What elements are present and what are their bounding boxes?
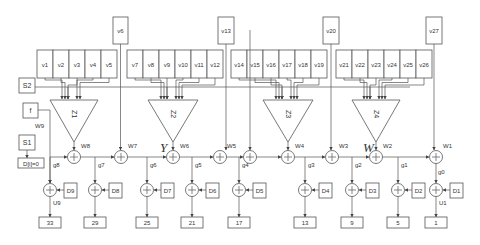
tap-label: g2 (355, 162, 362, 168)
delay-D7-label: D7 (164, 188, 172, 194)
connector-line (182, 78, 215, 99)
cell-v25-label: v25 (403, 62, 413, 68)
connector-line (45, 78, 62, 99)
cell-v23-label: v23 (371, 62, 381, 68)
W9-label: W9 (35, 123, 45, 129)
connector-line (80, 78, 109, 99)
connector-line (135, 78, 161, 99)
output-21-label: 21 (189, 220, 196, 226)
summing-triangle-Z1 (50, 100, 98, 142)
weight-label-W8: W8 (81, 143, 91, 149)
delay-D3-label: D3 (369, 188, 377, 194)
cell-v7-label: v7 (132, 62, 139, 68)
delay-D6-label: D6 (209, 188, 217, 194)
delay-D2-label: D2 (415, 188, 423, 194)
output-29-label: 29 (92, 220, 99, 226)
f-box-label: f (30, 107, 32, 114)
summing-triangle-Z2 (148, 100, 198, 142)
cell-v12-label: v12 (210, 62, 220, 68)
weight-label-W4: W4 (295, 143, 305, 149)
cell-v8-label: v8 (148, 62, 155, 68)
cell-v18-label: v18 (298, 62, 308, 68)
block-diagram: S2v6v13v20v27v1v2v3v4v5Z1v7v8v9v10v11v12… (0, 0, 480, 245)
weight-label-W5: W5 (227, 143, 237, 149)
connector-line (239, 78, 276, 99)
connector-line (68, 78, 77, 99)
W-label: W (363, 140, 375, 155)
connector-line (255, 78, 279, 99)
triangle-label: Z3 (285, 110, 292, 118)
weight-label-W6: W6 (180, 143, 190, 149)
weight-label-W7: W7 (128, 143, 138, 149)
tap-label: g4 (242, 162, 249, 168)
cell-v3-label: v3 (74, 62, 81, 68)
cell-v26-label: v26 (419, 62, 429, 68)
cell-v21-label: v21 (339, 62, 349, 68)
connector-line (370, 78, 376, 99)
cell-v22-label: v22 (355, 62, 365, 68)
output-17-label: 17 (236, 220, 243, 226)
S1-box-label: S1 (23, 139, 32, 146)
triangle-label: Z2 (170, 110, 177, 118)
connector-line (385, 78, 424, 99)
delay-D8-label: D8 (112, 188, 120, 194)
connector-line (271, 78, 282, 99)
output-13-label: 13 (302, 220, 309, 226)
delay-D4-label: D4 (322, 188, 330, 194)
output-25-label: 25 (144, 220, 151, 226)
input-v13-label: v13 (221, 28, 231, 34)
summing-triangle-Z4 (352, 100, 400, 142)
connector-line (61, 78, 65, 99)
output-33-label: 33 (47, 220, 54, 226)
cell-v17-label: v17 (282, 62, 292, 68)
U1-label: U1 (439, 200, 447, 206)
cell-v16-label: v16 (266, 62, 276, 68)
connector-line (287, 78, 291, 99)
delay-D1-label: D1 (453, 188, 461, 194)
input-v27-label: v27 (429, 28, 439, 34)
connector-line (360, 78, 367, 99)
tap-label: g8 (53, 162, 60, 168)
tap-label: g5 (195, 162, 202, 168)
input-v20-label: v20 (326, 28, 336, 34)
cell-v2-label: v2 (58, 62, 65, 68)
cell-v10-label: v10 (178, 62, 188, 68)
S2-box-label: S2 (23, 82, 32, 89)
tap-label: g1 (401, 162, 408, 168)
connector-line (151, 78, 164, 99)
cell-v19-label: v19 (314, 62, 324, 68)
cell-v11-label: v11 (194, 62, 204, 68)
cell-v24-label: v24 (387, 62, 397, 68)
cell-v9-label: v9 (164, 62, 171, 68)
weight-label-W1: W1 (443, 143, 453, 149)
triangle-label: Z4 (373, 110, 380, 118)
cell-v1-label: v1 (42, 62, 49, 68)
tap-label: g7 (98, 162, 105, 168)
weight-label-W3: W3 (339, 143, 349, 149)
delay-D5-label: D5 (256, 188, 264, 194)
connector-line (38, 110, 50, 183)
connector-line (382, 78, 408, 99)
connector-line (77, 78, 93, 99)
connector-line (344, 78, 364, 99)
tap-label: g6 (150, 162, 157, 168)
cell-v14-label: v14 (234, 62, 244, 68)
connector-line (294, 78, 303, 99)
cell-v5-label: v5 (106, 62, 113, 68)
input-v6-label: v6 (117, 28, 124, 34)
summing-triangle-Z3 (263, 100, 313, 142)
connector-line (297, 78, 319, 99)
cell-v15-label: v15 (250, 62, 260, 68)
triangle-label: Z1 (71, 110, 78, 118)
tap-label: g3 (308, 162, 315, 168)
g0-label: g0 (438, 169, 445, 175)
cell-v4-label: v4 (90, 62, 97, 68)
delay-D9-label: D9 (67, 188, 75, 194)
weight-label-W2: W2 (383, 143, 393, 149)
U9-label: U9 (53, 200, 61, 206)
init-box-label: D[i]=0 (23, 161, 40, 167)
connector-line (379, 78, 392, 99)
